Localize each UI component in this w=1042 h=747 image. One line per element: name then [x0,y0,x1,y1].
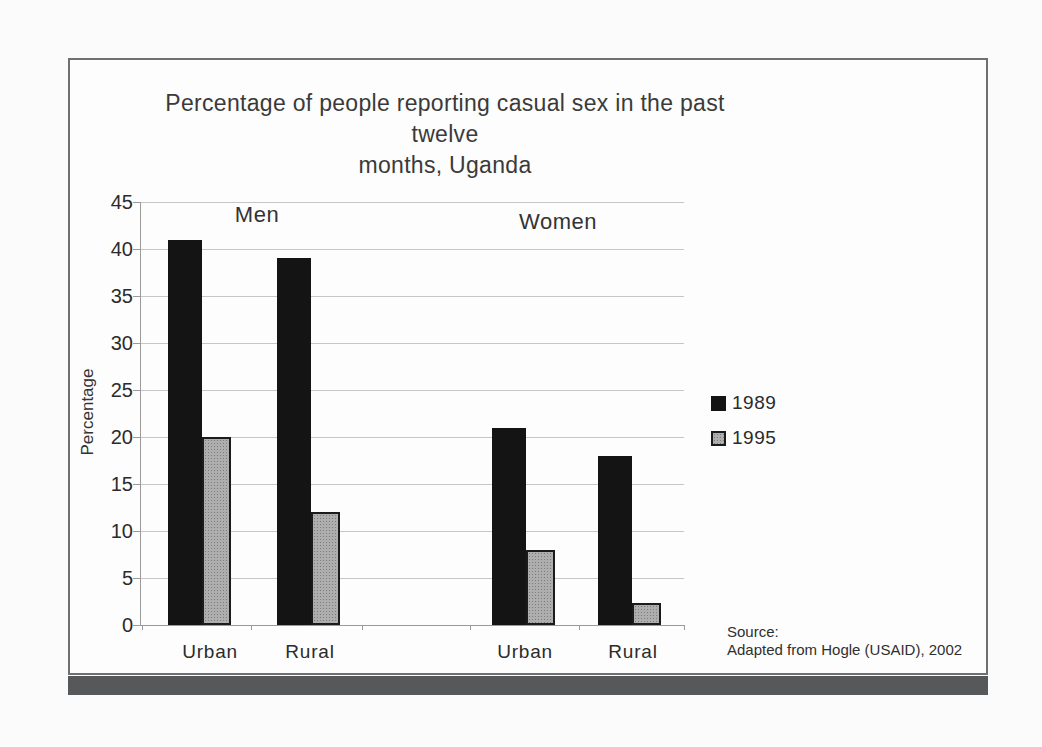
bar-1995-women-rural [632,603,661,625]
legend-swatch-1989 [711,396,726,411]
x-category-label-men-rural: Rural [260,641,360,663]
y-tick-label-10: 10 [87,520,133,543]
y-tick-15 [133,484,140,485]
y-tick-10 [133,531,140,532]
y-tick-30 [133,343,140,344]
group-header-men: Men [197,202,317,228]
bar-1995-men-urban [202,437,231,625]
legend-entry-1995: 1995 [711,427,776,449]
y-tick-label-40: 40 [87,238,133,261]
y-tick-20 [133,437,140,438]
y-tick-45 [133,202,140,203]
source-note: Source: Adapted from Hogle (USAID), 2002 [727,623,967,659]
y-tick-label-15: 15 [87,473,133,496]
chart-title: Percentage of people reporting casual se… [140,88,750,181]
scanned-chart-page: Percentage of people reporting casual se… [0,0,1042,747]
x-tick-1 [251,625,252,630]
gridline-30 [140,343,684,344]
y-tick-label-45: 45 [87,191,133,214]
x-tick-2 [362,625,363,630]
y-tick-label-0: 0 [87,614,133,637]
bar-1995-women-urban [526,550,555,625]
source-text: Adapted from Hogle (USAID), 2002 [727,641,967,659]
source-label: Source: [727,623,967,641]
x-category-label-women-urban: Urban [475,641,575,663]
y-tick-label-5: 5 [87,567,133,590]
x-axis-line [135,625,684,626]
y-tick-25 [133,390,140,391]
gridline-40 [140,249,684,250]
x-tick-3 [470,625,471,630]
group-header-women: Women [498,209,618,235]
y-tick-40 [133,249,140,250]
x-tick-4 [579,625,580,630]
x-tick-0 [142,625,143,630]
legend: 1989 1995 [711,392,776,449]
y-axis-line [140,202,141,625]
x-category-label-women-rural: Rural [583,641,683,663]
bar-1989-women-urban [492,428,526,625]
chart-title-line1: Percentage of people reporting casual se… [140,88,750,150]
y-tick-5 [133,578,140,579]
gridline-25 [140,390,684,391]
y-tick-label-30: 30 [87,332,133,355]
x-category-label-men-urban: Urban [160,641,260,663]
bar-1989-women-rural [598,456,632,625]
y-tick-label-20: 20 [87,426,133,449]
bar-1989-men-rural [277,258,311,625]
gridline-35 [140,296,684,297]
slide-bottom-bar [68,676,988,695]
x-tick-5 [684,625,685,630]
legend-label-1995: 1995 [732,427,776,449]
y-tick-label-35: 35 [87,285,133,308]
bar-1989-men-urban [168,240,202,625]
bar-1995-men-rural [311,512,340,625]
legend-swatch-1995 [711,431,726,446]
y-tick-35 [133,296,140,297]
legend-label-1989: 1989 [732,392,776,414]
legend-entry-1989: 1989 [711,392,776,414]
chart-title-line2: months, Uganda [140,150,750,181]
y-tick-label-25: 25 [87,379,133,402]
